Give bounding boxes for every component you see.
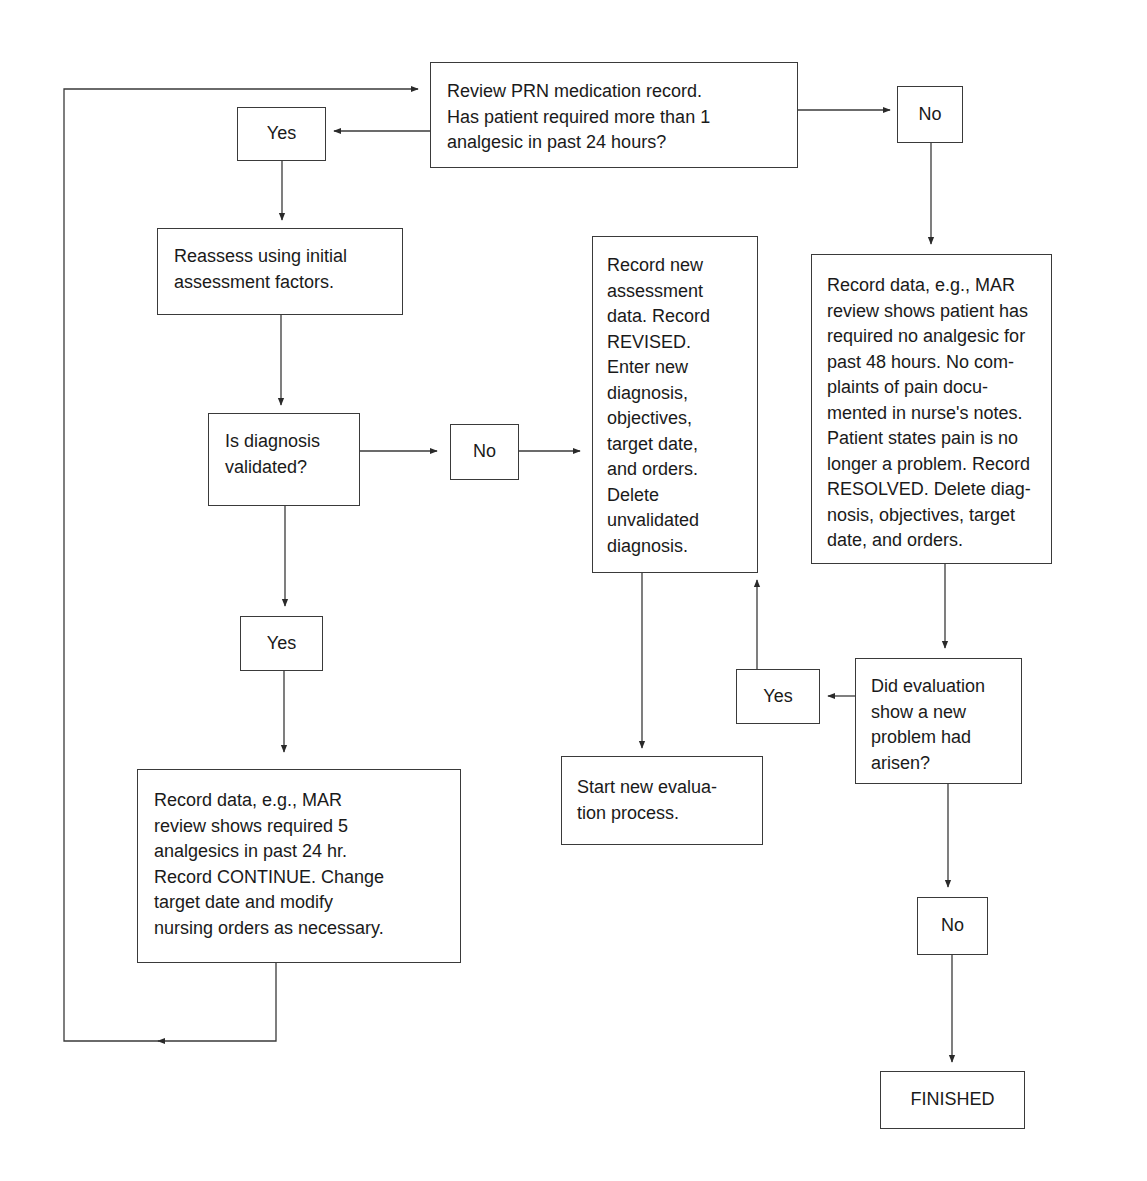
node-yes-diagnosis-validated: Yes — [240, 616, 323, 671]
node-diagnosis-validated-question: Is diagnosis validated? — [208, 413, 360, 506]
node-reassess: Reassess using initial assessment factor… — [157, 228, 403, 315]
node-new-problem-question: Did evaluation show a new problem had ar… — [855, 658, 1022, 784]
node-label: Start new evalua- tion process. — [577, 775, 717, 826]
node-record-continue: Record data, e.g., MAR review shows requ… — [137, 769, 461, 963]
node-label: No — [918, 102, 941, 128]
node-yes-new-problem: Yes — [736, 669, 820, 724]
node-finished: FINISHED — [880, 1071, 1025, 1129]
node-label: Review PRN medication record. Has patien… — [447, 79, 710, 156]
node-record-revised: Record new assessment data. Record REVIS… — [592, 236, 758, 573]
node-label: Yes — [763, 684, 792, 710]
node-yes-more-than-one: Yes — [237, 107, 326, 161]
node-no-new-problem: No — [917, 897, 988, 955]
node-no-diagnosis-not-validated: No — [450, 424, 519, 480]
node-record-resolved: Record data, e.g., MAR review shows pati… — [811, 254, 1052, 564]
node-label: Record new assessment data. Record REVIS… — [607, 253, 710, 559]
node-no-more-than-one: No — [897, 86, 963, 143]
node-review-prn-record: Review PRN medication record. Has patien… — [430, 62, 798, 168]
edge-continue-loop-bottom — [158, 963, 276, 1041]
node-label: Yes — [267, 631, 296, 657]
node-label: Yes — [267, 121, 296, 147]
node-label: Record data, e.g., MAR review shows requ… — [154, 788, 384, 941]
node-label: No — [473, 439, 496, 465]
node-label: FINISHED — [910, 1087, 994, 1113]
node-label: Did evaluation show a new problem had ar… — [871, 674, 985, 776]
node-label: Record data, e.g., MAR review shows pati… — [827, 273, 1031, 554]
node-label: Reassess using initial assessment factor… — [174, 244, 347, 295]
connector-layer — [0, 0, 1147, 1181]
node-label: Is diagnosis validated? — [225, 429, 320, 480]
node-start-new-evaluation: Start new evalua- tion process. — [561, 756, 763, 845]
node-label: No — [941, 913, 964, 939]
